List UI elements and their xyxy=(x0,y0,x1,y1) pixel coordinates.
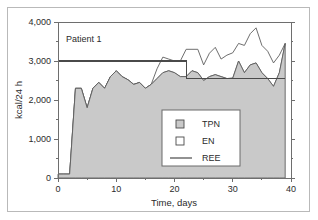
x-axis-title: Time, days xyxy=(151,197,197,208)
legend-label-tpn: TPN xyxy=(202,119,220,129)
legend-swatch-tpn-inner xyxy=(178,122,182,126)
x-tick-label: 30 xyxy=(228,184,238,194)
x-tick-label: 20 xyxy=(169,184,179,194)
y-tick-label: 0 xyxy=(46,173,51,183)
chart-legend: TPNENREE xyxy=(162,110,240,166)
area-chart: 01,0002,0003,0004,000010203040 Time, day… xyxy=(0,0,318,220)
figure-container: 01,0002,0003,0004,000010203040 Time, day… xyxy=(0,0,318,220)
legend-label-en: EN xyxy=(202,136,215,146)
x-tick-label: 40 xyxy=(286,184,296,194)
x-tick-label: 0 xyxy=(55,184,60,194)
patient-annotation: Patient 1 xyxy=(66,34,102,44)
legend-swatch-en xyxy=(176,137,184,145)
y-axis-title: kcal/24 h xyxy=(13,81,24,119)
y-tick-label: 1,000 xyxy=(28,134,51,144)
legend-label-ree: REE xyxy=(202,153,221,163)
y-tick-label: 4,000 xyxy=(28,17,51,27)
y-tick-label: 2,000 xyxy=(28,95,51,105)
y-tick-label: 3,000 xyxy=(28,56,51,66)
chart-plot-wrapper: 01,0002,0003,0004,000010203040 Time, day… xyxy=(0,0,318,220)
x-tick-label: 10 xyxy=(111,184,121,194)
